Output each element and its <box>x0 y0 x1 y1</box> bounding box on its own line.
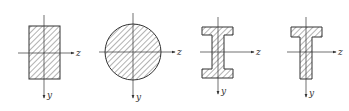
cross-sections-diagram: z y z y z y z y <box>0 0 349 111</box>
z-axis-label: z <box>176 47 182 57</box>
i-beam-shape <box>202 27 233 78</box>
t-beam-section: z y <box>287 17 343 98</box>
z-axis-label: z <box>75 48 81 58</box>
t-beam-shape <box>291 27 322 79</box>
rectangle-section: z y <box>18 15 81 100</box>
z-axis-label: z <box>255 47 261 57</box>
rectangle-shape <box>29 26 60 79</box>
y-axis-label: y <box>46 90 53 100</box>
y-axis-label: y <box>135 92 142 102</box>
y-axis-label: y <box>308 88 315 98</box>
i-beam-section: z y <box>200 17 261 96</box>
z-axis-label: z <box>337 47 343 57</box>
circle-section: z y <box>99 13 182 102</box>
y-axis-label: y <box>220 86 227 96</box>
